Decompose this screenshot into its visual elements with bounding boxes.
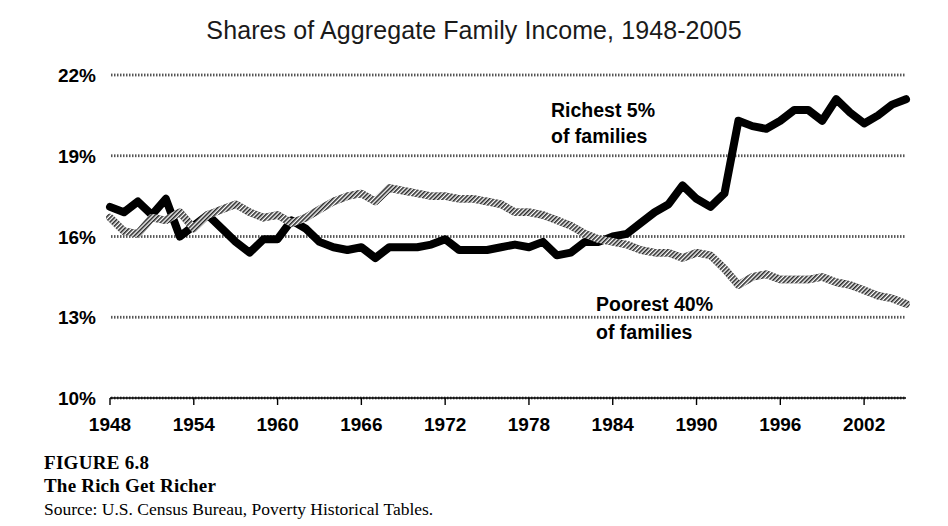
annotation-richest: Richest 5% of families [551, 99, 655, 147]
annotation-richest-line2: of families [551, 125, 648, 147]
gridline [110, 316, 906, 319]
x-axis-tick-label: 1948 [89, 414, 131, 435]
y-axis-tick-label: 19% [58, 146, 96, 167]
x-axis-tick-label: 2002 [843, 414, 885, 435]
y-axis-tick-labels: 10%13%16%19%22% [58, 65, 96, 409]
annotation-richest-line1: Richest 5% [551, 99, 655, 121]
gridline [110, 154, 906, 157]
figure-container: Shares of Aggregate Family Income, 1948-… [0, 0, 948, 526]
x-axis-tick-label: 1972 [424, 414, 466, 435]
caption-source: Source: U.S. Census Bureau, Poverty Hist… [44, 498, 744, 520]
x-axis-tick-label: 1954 [173, 414, 216, 435]
x-axis-tick-label: 1990 [675, 414, 717, 435]
figure-caption: FIGURE 6.8 The Rich Get Richer Source: U… [44, 452, 744, 520]
caption-figure-title: The Rich Get Richer [44, 474, 744, 497]
caption-figure-number: FIGURE 6.8 [44, 452, 744, 474]
x-axis-tick-label: 1978 [508, 414, 550, 435]
y-axis-tick-label: 13% [58, 307, 96, 328]
x-axis-tick-label: 1996 [759, 414, 801, 435]
x-axis-tick-label: 1966 [340, 414, 382, 435]
x-axis-tick-label: 1984 [592, 414, 635, 435]
y-axis-tick-label: 10% [58, 388, 96, 409]
x-axis-tick-label: 1960 [256, 414, 298, 435]
y-axis-tick-label: 22% [58, 65, 96, 86]
annotation-poorest-line2: of families [596, 321, 693, 343]
data-series-group [110, 99, 906, 304]
y-axis-tick-label: 16% [58, 227, 96, 248]
gridline [110, 74, 906, 77]
series-line [110, 99, 906, 258]
annotation-poorest-line1: Poorest 40% [596, 293, 713, 315]
chart-plot-area: 10%13%16%19%22% 194819541960196619721978… [0, 0, 948, 470]
x-axis-tick-labels: 1948195419601966197219781984199019962002 [89, 414, 885, 435]
